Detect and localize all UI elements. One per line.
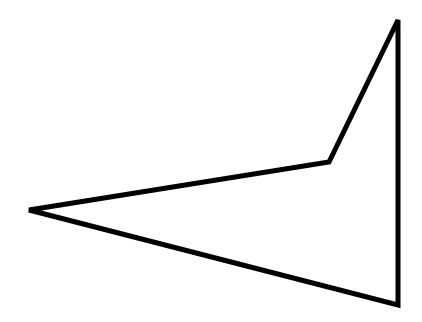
diagram-canvas	[0, 0, 422, 322]
quadrilateral-shape	[29, 20, 398, 305]
